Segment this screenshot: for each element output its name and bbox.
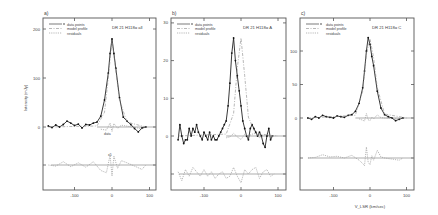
- data-point: [233, 37, 235, 39]
- panel-a-label: a): [44, 10, 49, 16]
- data-point: [111, 38, 113, 40]
- data-point: [177, 139, 179, 141]
- data-point: [183, 143, 185, 145]
- data-point: [355, 110, 357, 112]
- data-point: [387, 116, 389, 118]
- data-point: [362, 87, 364, 89]
- data-point: [203, 131, 205, 133]
- x-tick-label: 100: [146, 193, 154, 198]
- data-point: [100, 115, 102, 117]
- x-tick-label: 0: [369, 193, 372, 198]
- data-point: [311, 118, 313, 120]
- data-point: [85, 124, 87, 126]
- legend-residuals-label: residuals: [326, 32, 341, 36]
- data-point: [74, 125, 76, 127]
- x-tick-label: 0: [240, 193, 243, 198]
- residuals-line: [178, 167, 274, 182]
- y-tick-label: 10: [163, 96, 168, 101]
- data-point: [259, 131, 261, 133]
- data-point: [249, 128, 251, 130]
- legend-model-label: model profile: [195, 27, 216, 31]
- data-point: [264, 146, 266, 148]
- legend: data points model profile residuals: [306, 23, 347, 36]
- data-point: [92, 122, 94, 124]
- x-tick-label: 100: [275, 193, 283, 198]
- data-point: [55, 124, 57, 126]
- legend-data-label: data points: [195, 23, 213, 27]
- data-point: [81, 127, 83, 129]
- panel-c-frame: [300, 18, 414, 190]
- panel-b-title: DR 21 H118α A: [243, 25, 272, 30]
- panel-b-label: b): [172, 10, 177, 16]
- data-point: [205, 135, 207, 137]
- y-tick-label: 30: [163, 20, 168, 25]
- data-point: [196, 124, 198, 126]
- data-point: [47, 125, 49, 127]
- x-axis-label: V_LSR (km/sec): [355, 204, 386, 209]
- data-point: [225, 120, 227, 122]
- data-point: [62, 124, 64, 126]
- x-tick-label: 100: [403, 193, 411, 198]
- data-point: [122, 116, 124, 118]
- panel-a-frame: [43, 18, 156, 190]
- data-point: [185, 139, 187, 141]
- data-point: [231, 52, 233, 54]
- data-point: [198, 131, 200, 133]
- figure: a) data points model profile residuals D…: [0, 0, 438, 215]
- data-point: [179, 124, 181, 126]
- data-point: [194, 131, 196, 133]
- data-point: [77, 123, 79, 125]
- data-point: [188, 128, 190, 130]
- legend-data-label: data points: [326, 23, 344, 27]
- data-point: [255, 131, 257, 133]
- data-point: [266, 135, 268, 137]
- y-axis-label: Intensity (mJy): [23, 84, 28, 111]
- y-tick-label: 100: [290, 49, 298, 54]
- data-point: [89, 124, 91, 126]
- data-point: [344, 116, 346, 118]
- y-tick-label: 100: [33, 76, 41, 81]
- data-point: [369, 43, 371, 45]
- data-point: [211, 139, 213, 141]
- data-points-line: [308, 38, 403, 121]
- data-point: [395, 120, 397, 122]
- data-point: [268, 128, 270, 130]
- data-points-line: [48, 39, 146, 132]
- data-point: [229, 82, 231, 84]
- y-tick-label: 50: [292, 82, 297, 87]
- panel-a-title: DR 21 H118α all: [112, 25, 143, 30]
- panel-a: a) data points model profile residuals D…: [23, 10, 156, 198]
- data-point: [218, 135, 220, 137]
- data-point: [104, 99, 106, 101]
- data-point: [367, 37, 369, 39]
- data-point: [223, 124, 225, 126]
- legend-model-label: model profile: [67, 27, 88, 31]
- data-point: [96, 121, 98, 123]
- data-point: [380, 107, 382, 109]
- data-point: [322, 114, 324, 116]
- data-point: [270, 139, 272, 141]
- data-point: [238, 90, 240, 92]
- data-point: [248, 139, 250, 141]
- legend-model-label: model profile: [326, 27, 347, 31]
- y-tick-label: 200: [33, 27, 41, 32]
- x-tick-label: -100: [200, 193, 209, 198]
- data-point: [130, 124, 132, 126]
- data-point: [212, 135, 214, 137]
- data-point: [214, 139, 216, 141]
- data-point: [186, 139, 188, 141]
- data-point: [235, 60, 237, 62]
- model-profile-line: [308, 39, 407, 118]
- model-profile-line: [48, 40, 146, 127]
- data-point: [51, 127, 53, 129]
- data-point: [207, 139, 209, 141]
- residuals-line: [308, 147, 403, 166]
- panel-b: b) data points model profile residuals D…: [163, 10, 286, 198]
- annotation-data: data: [104, 132, 111, 136]
- data-point: [371, 56, 373, 58]
- legend-residuals-label: residuals: [195, 32, 210, 36]
- data-point: [209, 131, 211, 133]
- legend: data points model profile residuals: [177, 23, 216, 36]
- data-point: [137, 131, 139, 133]
- data-points-line: [178, 38, 272, 147]
